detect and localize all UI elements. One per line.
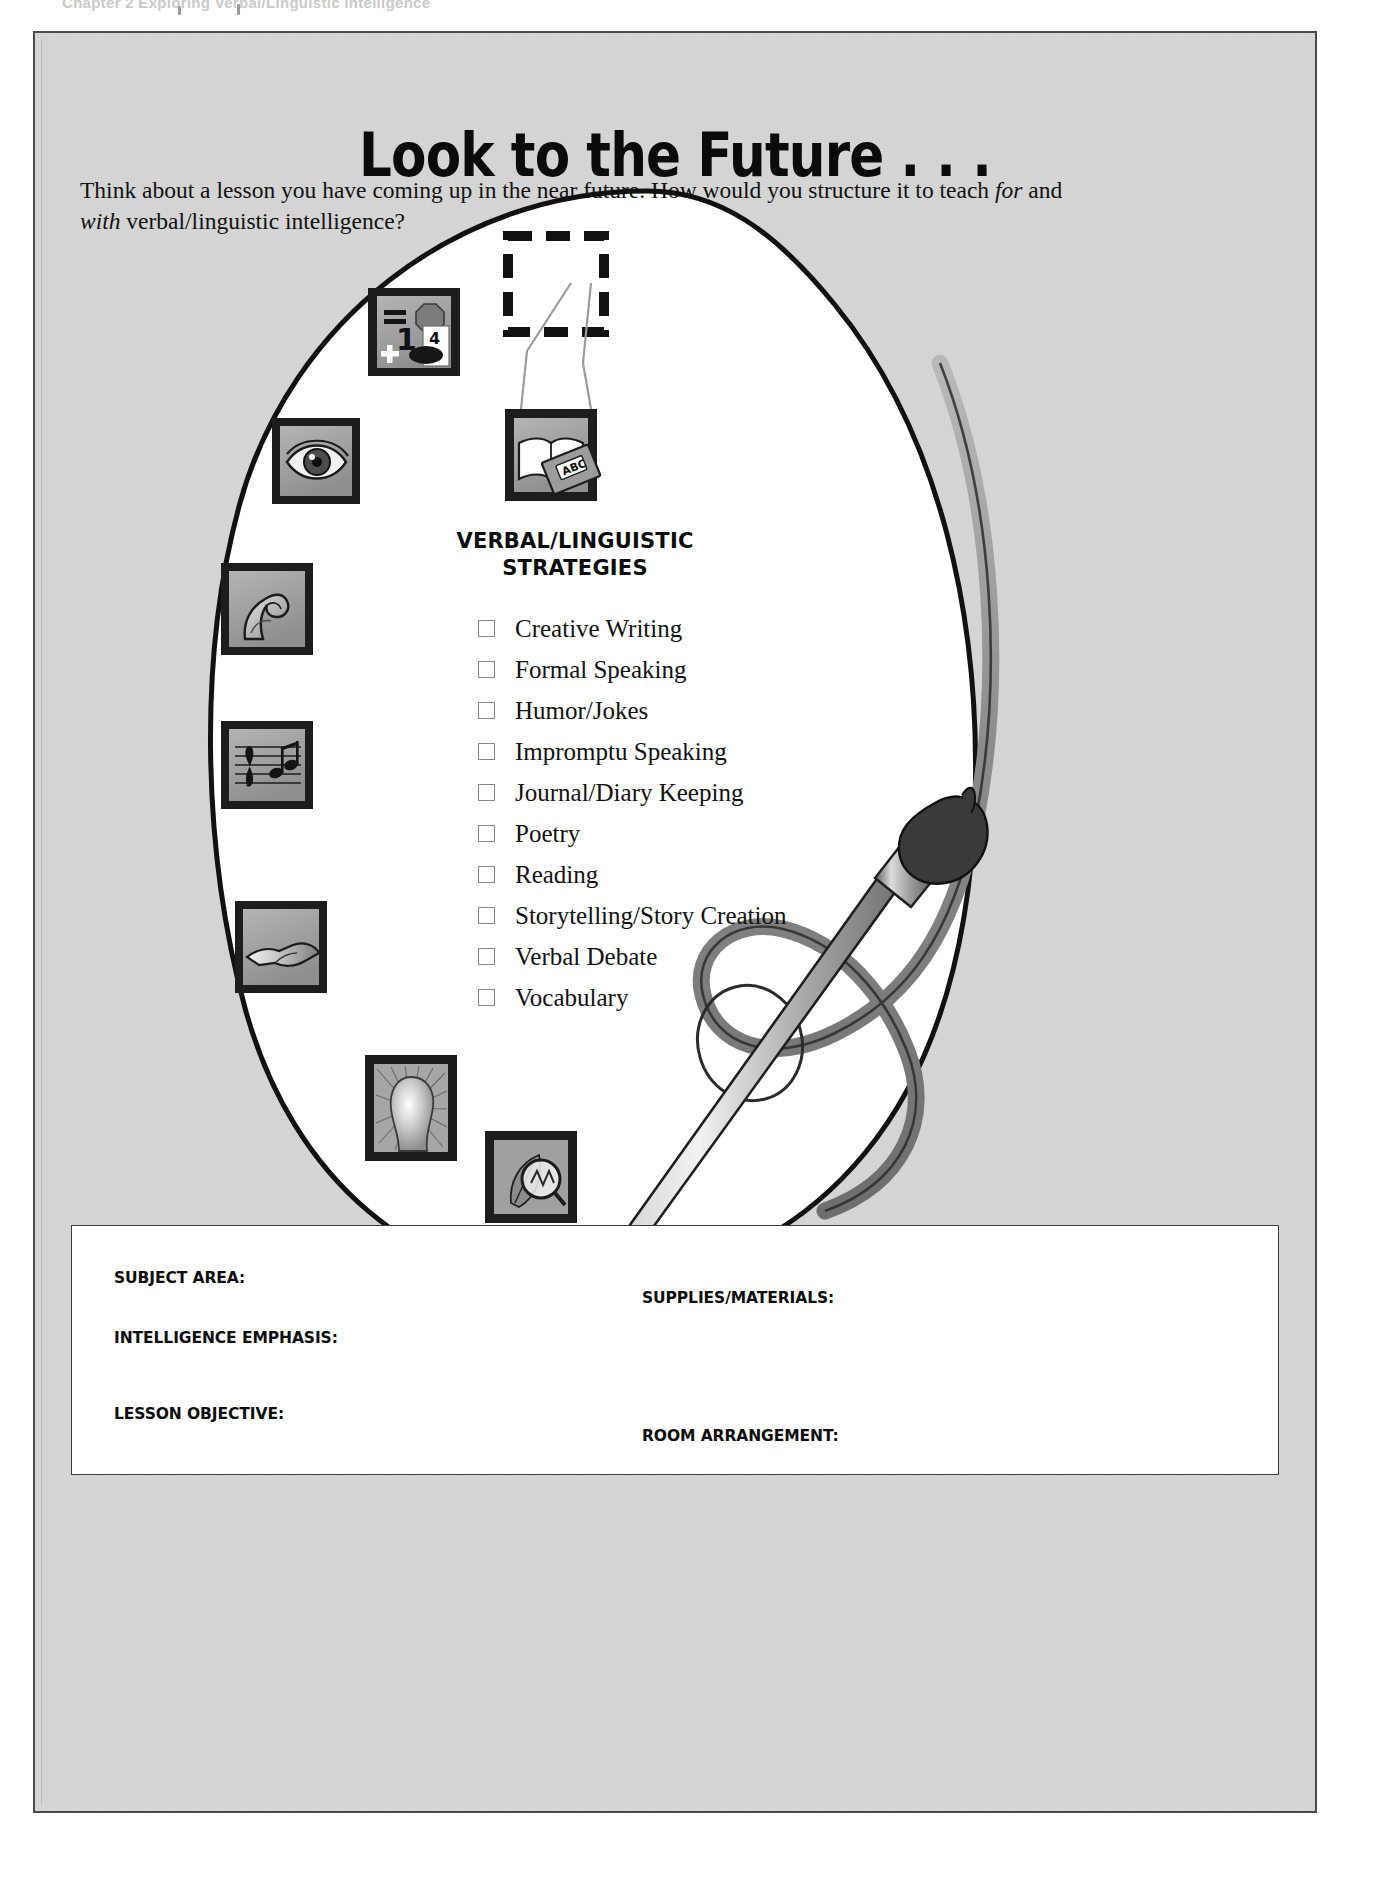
lesson-planning-form[interactable]: SUBJECT AREA: SUPPLIES/MATERIALS: INTELL… bbox=[71, 1225, 1279, 1475]
list-item[interactable]: Impromptu Speaking bbox=[478, 731, 787, 772]
logical-mathematical-icon: 1 4 bbox=[368, 288, 460, 376]
strategies-heading: VERBAL/LINGUISTIC STRATEGIES bbox=[415, 528, 735, 582]
scan-speck bbox=[178, 6, 181, 15]
scan-speck bbox=[237, 4, 240, 15]
label-intelligence-emphasis: INTELLIGENCE EMPHASIS: bbox=[114, 1328, 338, 1347]
visual-spatial-icon bbox=[272, 418, 360, 504]
label-room-arrangement: ROOM ARRANGEMENT: bbox=[642, 1426, 839, 1445]
checkbox-icon[interactable] bbox=[478, 907, 495, 924]
label-lesson-objective: LESSON OBJECTIVE: bbox=[114, 1404, 284, 1423]
list-item-label: Impromptu Speaking bbox=[515, 738, 727, 766]
list-item[interactable]: Journal/Diary Keeping bbox=[478, 772, 787, 813]
running-head: Chapter 2 Exploring Verbal/Linguistic In… bbox=[62, 0, 862, 16]
list-item[interactable]: Poetry bbox=[478, 813, 787, 854]
intro-part-1: Think about a lesson you have coming up … bbox=[80, 177, 995, 203]
musical-rhythmic-icon bbox=[221, 721, 313, 809]
list-item-label: Storytelling/Story Creation bbox=[515, 902, 787, 930]
intro-emphasis-for: for bbox=[995, 177, 1022, 203]
label-subject-area: SUBJECT AREA: bbox=[114, 1268, 245, 1287]
checkbox-icon[interactable] bbox=[478, 866, 495, 883]
list-item-label: Formal Speaking bbox=[515, 656, 687, 684]
checkbox-icon[interactable] bbox=[478, 743, 495, 760]
list-item[interactable]: Humor/Jokes bbox=[478, 690, 787, 731]
list-item-label: Creative Writing bbox=[515, 615, 682, 643]
interpersonal-icon bbox=[235, 901, 327, 993]
strategies-heading-line-2: STRATEGIES bbox=[415, 555, 735, 582]
checkbox-icon[interactable] bbox=[478, 825, 495, 842]
list-item[interactable]: Storytelling/Story Creation bbox=[478, 895, 787, 936]
intro-part-3: verbal/linguistic intelligence? bbox=[120, 208, 405, 234]
page-root: Chapter 2 Exploring Verbal/Linguistic In… bbox=[0, 0, 1383, 1879]
list-item-label: Vocabulary bbox=[515, 984, 628, 1012]
intro-paragraph: Think about a lesson you have coming up … bbox=[80, 175, 1080, 238]
checkbox-icon[interactable] bbox=[478, 702, 495, 719]
verbal-linguistic-icon: ABC bbox=[505, 409, 601, 501]
intro-emphasis-with: with bbox=[80, 208, 120, 234]
intrapersonal-icon bbox=[365, 1055, 457, 1161]
bodily-kinesthetic-icon bbox=[221, 563, 313, 655]
list-item-label: Poetry bbox=[515, 820, 580, 848]
checkbox-icon[interactable] bbox=[478, 661, 495, 678]
list-item[interactable]: Reading bbox=[478, 854, 787, 895]
checkbox-icon[interactable] bbox=[478, 620, 495, 637]
checkbox-icon[interactable] bbox=[478, 989, 495, 1006]
strategies-checklist: Creative Writing Formal Speaking Humor/J… bbox=[478, 608, 787, 1018]
list-item[interactable]: Verbal Debate bbox=[478, 936, 787, 977]
checkbox-icon[interactable] bbox=[478, 784, 495, 801]
checkbox-icon[interactable] bbox=[478, 948, 495, 965]
list-item[interactable]: Creative Writing bbox=[478, 608, 787, 649]
worksheet-sheet: 1 4 bbox=[33, 31, 1317, 1813]
list-item[interactable]: Formal Speaking bbox=[478, 649, 787, 690]
strategies-heading-line-1: VERBAL/LINGUISTIC bbox=[415, 528, 735, 555]
list-item-label: Reading bbox=[515, 861, 598, 889]
svg-text:4: 4 bbox=[429, 329, 440, 348]
list-item-label: Journal/Diary Keeping bbox=[515, 779, 743, 807]
label-supplies-materials: SUPPLIES/MATERIALS: bbox=[642, 1288, 834, 1307]
intro-part-2: and bbox=[1022, 177, 1062, 203]
list-item-label: Verbal Debate bbox=[515, 943, 657, 971]
list-item-label: Humor/Jokes bbox=[515, 697, 648, 725]
list-item[interactable]: Vocabulary bbox=[478, 977, 787, 1018]
naturalist-icon bbox=[485, 1131, 577, 1223]
